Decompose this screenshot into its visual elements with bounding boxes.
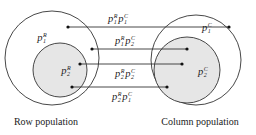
connection-line-4 [70,85,168,88]
connection-label-1: pR1 pC1 [107,13,128,25]
column-inner-circle [154,37,220,103]
connection-label-3: pR2 pC2 [114,68,135,80]
row-outer-label: pR1 [37,32,47,44]
column-population-caption: Column population [161,116,239,127]
connection-label-2: pR1 pC2 [114,35,135,47]
connection-label-4: pR2 pC1 [111,91,132,103]
row-inner-label: pR2 [61,65,71,77]
row-population-caption: Row population [14,116,78,127]
column-outer-label: pC1 [202,22,213,34]
column-inner-label: pC2 [198,66,209,78]
